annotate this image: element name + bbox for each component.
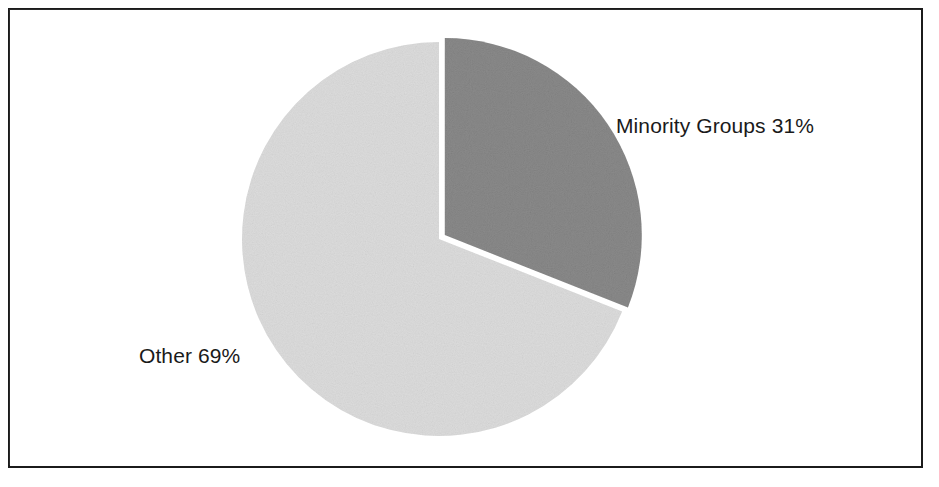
- pie-chart-figure: Minority Groups 31% Other 69%: [0, 0, 939, 487]
- pie-label-minority: Minority Groups 31%: [616, 115, 814, 136]
- pie-chart-svg: [0, 0, 939, 487]
- pie-label-other: Other 69%: [139, 345, 240, 366]
- plot-area: Minority Groups 31% Other 69%: [0, 0, 939, 487]
